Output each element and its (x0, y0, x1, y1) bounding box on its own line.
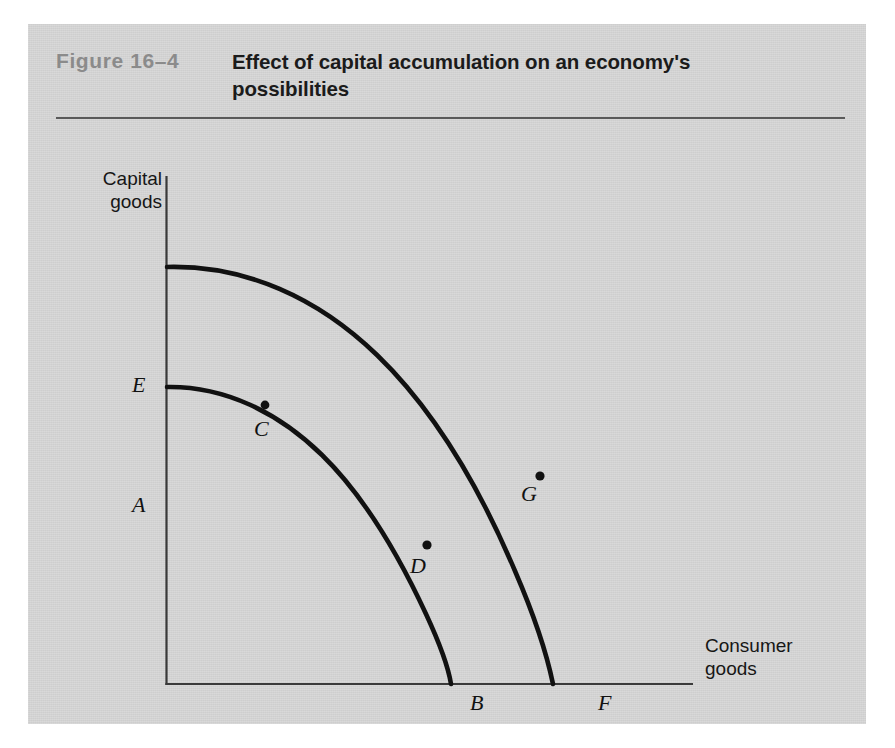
point-label-g: G (521, 481, 537, 507)
y-axis-title: Capital goods (66, 167, 162, 213)
point-label-c: C (254, 416, 269, 442)
header-divider (56, 117, 845, 119)
figure-number-label: Figure 16–4 (56, 49, 179, 73)
figure-title: Effect of capital accumulation on an eco… (232, 48, 792, 103)
ppf-curve-expanded (167, 267, 553, 684)
x-axis-title-line1: Consumer (705, 634, 793, 657)
point-label-d: D (410, 553, 426, 579)
point-marker-g (535, 471, 544, 480)
point-label-e: E (132, 372, 145, 398)
point-marker-c (261, 401, 270, 410)
plot-area: Capital goods Consumer goods E A C D G B… (28, 124, 866, 724)
x-axis-title-line2: goods (705, 657, 793, 680)
y-axis-title-line1: Capital (66, 167, 162, 190)
point-label-b: B (470, 690, 483, 716)
point-label-a: A (132, 492, 145, 518)
point-label-f: F (598, 690, 611, 716)
y-axis-title-line2: goods (66, 190, 162, 213)
figure-header: Figure 16–4 Effect of capital accumulati… (28, 24, 866, 120)
ppf-curve-original (167, 387, 451, 684)
figure-panel: Figure 16–4 Effect of capital accumulati… (28, 24, 866, 724)
point-marker-d (422, 540, 431, 549)
x-axis-title: Consumer goods (705, 634, 793, 680)
